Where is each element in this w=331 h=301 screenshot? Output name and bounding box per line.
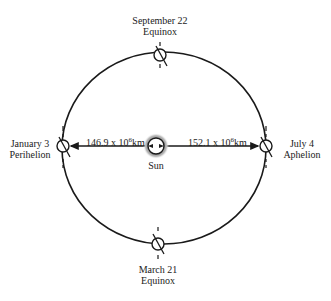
perihelion-distance-label: 146.9 x 106km [86, 135, 145, 148]
perihelion-distance-unit: km [132, 137, 145, 148]
earth-september-icon [154, 42, 167, 68]
earth-march-icon [152, 227, 164, 259]
label-sun: Sun [138, 160, 174, 171]
label-january-date: January 3 [2, 138, 58, 149]
label-september: September 22 Equinox [114, 15, 206, 37]
aphelion-distance-mantissa: 152.1 x 10 [188, 137, 231, 148]
label-january-event: Perihelion [2, 149, 58, 160]
perihelion-distance-mantissa: 146.9 x 10 [86, 137, 129, 148]
label-march-event: Equinox [118, 275, 198, 286]
label-march: March 21 Equinox [118, 264, 198, 286]
aphelion-distance-unit: km [234, 137, 247, 148]
label-september-date: September 22 [114, 15, 206, 26]
sun-icon [143, 133, 169, 159]
aphelion-distance-label: 152.1 x 106km [188, 135, 247, 148]
label-january: January 3 Perihelion [2, 138, 58, 160]
label-july-event: Aphelion [276, 149, 328, 160]
label-march-date: March 21 [118, 264, 198, 275]
label-september-event: Equinox [114, 26, 206, 37]
label-july-date: July 4 [276, 138, 328, 149]
earth-july-icon [260, 126, 272, 168]
label-july: July 4 Aphelion [276, 138, 328, 160]
